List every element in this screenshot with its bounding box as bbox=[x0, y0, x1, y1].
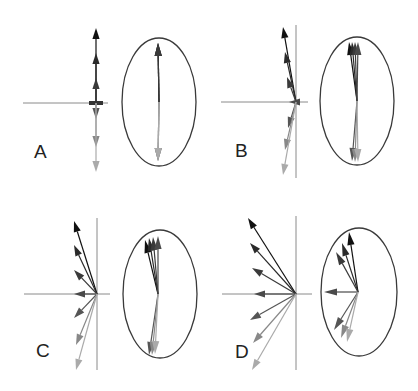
arrowhead-icon bbox=[75, 358, 82, 370]
ellipse-vector-7 bbox=[346, 292, 358, 342]
arrowhead-icon bbox=[281, 164, 288, 175]
arrowhead-icon bbox=[252, 268, 263, 277]
axis-vectors bbox=[89, 28, 103, 172]
arrowhead-icon bbox=[324, 288, 337, 295]
panel-label-d: D bbox=[235, 341, 249, 362]
ellipse-vectors bbox=[324, 232, 358, 342]
arrowhead-icon bbox=[346, 329, 353, 342]
panel-label-a: A bbox=[34, 141, 47, 162]
arrowhead-icon bbox=[155, 43, 162, 56]
arrowhead-icon bbox=[250, 311, 261, 320]
arrowhead-icon bbox=[248, 218, 257, 229]
ellipse-vectors bbox=[155, 43, 162, 161]
arrowhead-icon bbox=[281, 27, 288, 38]
panels-group: ABCD bbox=[23, 25, 397, 370]
vector-arrow-7 bbox=[281, 102, 296, 175]
panel-d: D bbox=[222, 216, 397, 370]
arrowhead-icon bbox=[347, 232, 354, 245]
ellipse-vector-4 bbox=[324, 288, 358, 295]
ellipse-vectors bbox=[347, 42, 361, 162]
arrowhead-icon bbox=[155, 148, 162, 161]
axis-vectors bbox=[74, 221, 97, 370]
ellipse-vector-3 bbox=[155, 43, 162, 102]
arrowhead-icon bbox=[74, 290, 85, 297]
vector-arrow-1 bbox=[248, 218, 296, 294]
vector-arrow-7 bbox=[252, 294, 296, 370]
panel-label-c: C bbox=[36, 340, 50, 361]
axis-vectors bbox=[248, 218, 296, 370]
arrowhead-icon bbox=[92, 78, 99, 89]
vector-arrow-4 bbox=[254, 290, 296, 297]
vector-arrow-2 bbox=[74, 245, 97, 294]
axis-vectors bbox=[281, 27, 300, 175]
panel-a: A bbox=[23, 28, 196, 172]
ellipse-vector-6 bbox=[155, 102, 162, 161]
arrowhead-icon bbox=[92, 53, 99, 64]
arrowhead-icon bbox=[252, 359, 261, 370]
vector-diagram-figure: ABCD bbox=[0, 0, 418, 391]
vector-arrow-2 bbox=[250, 243, 296, 294]
panel-label-b: B bbox=[235, 140, 248, 161]
arrowhead-icon bbox=[74, 245, 82, 256]
vector-arrow-1 bbox=[74, 221, 97, 294]
vector-arrow-4 bbox=[74, 290, 97, 297]
vector-arrow-6 bbox=[253, 294, 296, 343]
arrowhead-icon bbox=[74, 221, 81, 233]
panel-b: B bbox=[221, 25, 394, 178]
vector-arrow-3 bbox=[92, 78, 99, 103]
vector-arrow-2 bbox=[284, 52, 296, 102]
arrowhead-icon bbox=[154, 236, 161, 249]
panel-c: C bbox=[24, 218, 197, 370]
arrowhead-icon bbox=[254, 290, 265, 297]
arrowhead-icon bbox=[76, 333, 84, 345]
vector-arrow-6 bbox=[76, 294, 97, 345]
arrowhead-icon bbox=[92, 161, 99, 172]
ellipse-outline bbox=[123, 230, 197, 358]
vector-arrow-3 bbox=[252, 268, 296, 294]
ellipse-vectors bbox=[145, 236, 162, 355]
arrowhead-icon bbox=[92, 28, 99, 39]
